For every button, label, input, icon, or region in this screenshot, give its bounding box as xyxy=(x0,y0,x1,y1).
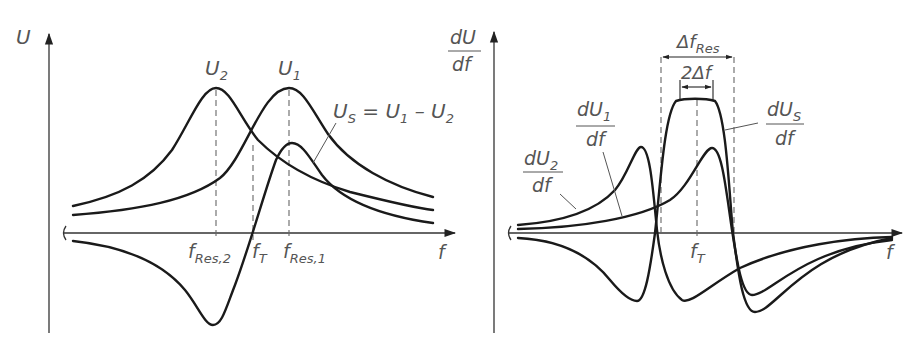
label-us-equation: US = U1 – U2 xyxy=(333,99,454,126)
label-u2: U2 xyxy=(205,56,228,83)
left-y-axis-label: U xyxy=(16,25,31,49)
label-two-delta-f: 2Δf xyxy=(681,62,714,83)
right-y-axis-den: df xyxy=(452,53,474,75)
left-chart: U f U2 U1 US = U1 – U2 fRes,2 fT fRes,1 xyxy=(16,25,455,333)
du2-leader-line xyxy=(560,194,576,209)
label-du2-den: df xyxy=(532,174,554,196)
label-du2-num: dU2 xyxy=(524,147,558,173)
right-x-axis-label: f xyxy=(886,241,896,263)
diagram-canvas: U f U2 U1 US = U1 – U2 fRes,2 fT fRes,1 … xyxy=(0,0,915,360)
left-x-axis-label: f xyxy=(438,241,448,263)
label-u1: U1 xyxy=(278,56,301,83)
label-dus-num: dUS xyxy=(767,98,801,124)
right-y-axis-num: dU xyxy=(450,26,476,48)
label-dus-den: df xyxy=(775,127,797,149)
tick-fres1: fRes,1 xyxy=(283,240,326,266)
label-delta-fres: ΔfRes xyxy=(675,31,720,56)
label-du1-num: dU1 xyxy=(577,98,611,124)
right-chart: dU df f ΔfRes 2Δf dU2 df dU1 df dUS df xyxy=(448,26,902,333)
tick-ft-right: fT xyxy=(690,240,706,266)
label-du1-den: df xyxy=(586,128,608,150)
dus-leader-line xyxy=(725,123,758,130)
tick-fres2: fRes,2 xyxy=(188,240,231,266)
tick-ft-left: fT xyxy=(252,240,268,266)
curve-du2-df xyxy=(518,147,892,301)
curve-dus-df xyxy=(518,99,892,312)
curve-du1-df xyxy=(518,148,892,295)
